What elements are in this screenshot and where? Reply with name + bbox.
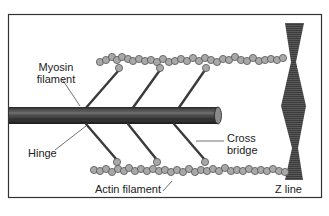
- z-line-label: Z line: [275, 183, 302, 195]
- hinge-label: Hinge: [28, 147, 57, 159]
- myosin-label: Myosinfilament: [37, 61, 76, 85]
- actin-label: Actin filament: [95, 183, 161, 195]
- sarcomere-diagram: Myosinfilament Hinge Crossbridge Actin f…: [0, 0, 329, 216]
- cross-bridge-label: Crossbridge: [227, 132, 258, 156]
- myosin-filament: [9, 107, 222, 124]
